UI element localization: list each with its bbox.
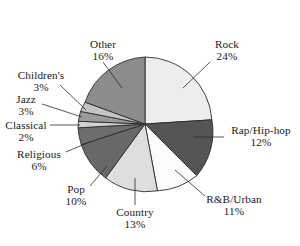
leader-line-jazz [42,104,82,117]
pie-label-rap-hip-hop-value: 12% [222,136,300,148]
pie-label-other-name: Other [78,38,128,50]
pie-slice-rock[interactable] [145,57,212,124]
pie-label-rnb-urban-name: R&B/Urban [196,193,272,205]
pie-label-other: Other 16% [78,38,128,63]
pie-label-other-value: 16% [78,50,128,62]
pie-label-rnb-urban: R&B/Urban 11% [196,193,272,218]
pie-slices [78,57,213,192]
pie-label-rnb-urban-value: 11% [196,205,272,217]
pie-label-rap-hip-hop: Rap/Hip-hop 12% [222,124,300,149]
pie-label-jazz: Jazz 3% [8,93,44,118]
pie-label-pop-name: Pop [56,183,96,195]
pie-label-pop-value: 10% [56,195,96,207]
pie-label-rap-hip-hop-name: Rap/Hip-hop [222,124,300,136]
pie-label-rock-value: 24% [200,50,254,62]
pie-label-pop: Pop 10% [56,183,96,208]
pie-label-country: Country 13% [105,206,165,231]
pie-label-religious-name: Religious [10,148,68,160]
pie-label-childrens-name: Children's [10,69,72,81]
pie-chart-figure: Rock 24% Rap/Hip-hop 12% R&B/Urban 11% C… [0,0,300,246]
pie-label-childrens: Children's 3% [10,69,72,94]
pie-label-country-name: Country [105,206,165,218]
pie-label-religious-value: 6% [10,160,68,172]
pie-label-classical: Classical 2% [0,119,52,144]
pie-label-religious: Religious 6% [10,148,68,173]
pie-label-childrens-value: 3% [10,81,72,93]
pie-label-country-value: 13% [105,218,165,230]
pie-label-classical-value: 2% [0,131,52,143]
pie-label-rock: Rock 24% [200,38,254,63]
pie-label-rock-name: Rock [200,38,254,50]
pie-label-jazz-value: 3% [8,105,44,117]
pie-label-classical-name: Classical [0,119,52,131]
pie-label-jazz-name: Jazz [8,93,44,105]
